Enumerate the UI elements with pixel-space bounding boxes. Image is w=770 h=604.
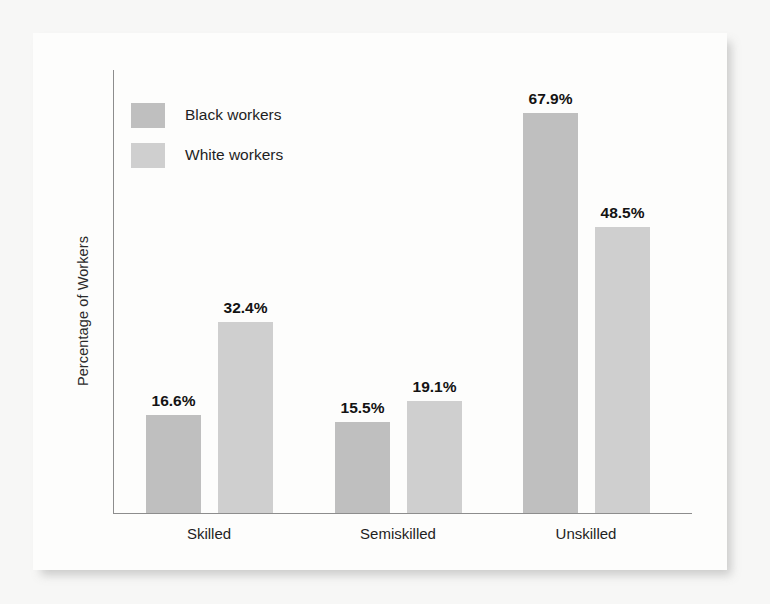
bar-rect (523, 113, 578, 513)
scanned-page-background: Percentage of Workers Black workers Whit… (0, 0, 770, 604)
bar-value-label: 15.5% (341, 399, 385, 417)
bar-rect (407, 401, 462, 513)
bar-value-label: 32.4% (224, 299, 268, 317)
figure-card: Percentage of Workers Black workers Whit… (33, 33, 727, 570)
bar-unskilled-black-workers[interactable]: 67.9% (523, 89, 578, 513)
x-axis-category-label-unskilled: Unskilled (506, 525, 666, 542)
bar-group-semiskilled: 15.5% 19.1% (335, 89, 462, 513)
bar-group-skilled: 16.6% 32.4% (146, 89, 273, 513)
bar-rect (146, 415, 201, 513)
bar-value-label: 67.9% (529, 90, 573, 108)
bar-value-label: 19.1% (413, 378, 457, 396)
bar-semiskilled-black-workers[interactable]: 15.5% (335, 89, 390, 513)
bar-semiskilled-white-workers[interactable]: 19.1% (407, 89, 462, 513)
bar-skilled-white-workers[interactable]: 32.4% (218, 89, 273, 513)
bar-group-unskilled: 67.9% 48.5% (523, 89, 650, 513)
x-axis-line (113, 513, 692, 514)
bar-skilled-black-workers[interactable]: 16.6% (146, 89, 201, 513)
bar-unskilled-white-workers[interactable]: 48.5% (595, 89, 650, 513)
bar-value-label: 16.6% (152, 392, 196, 410)
bar-rect (335, 422, 390, 513)
bar-value-label: 48.5% (601, 204, 645, 222)
y-axis-line (113, 70, 114, 514)
bar-rect (218, 322, 273, 513)
bar-chart-plot-area: Percentage of Workers Black workers Whit… (33, 33, 727, 570)
y-axis-title: Percentage of Workers (75, 201, 91, 421)
x-axis-category-label-skilled: Skilled (129, 525, 289, 542)
bar-rect (595, 227, 650, 513)
x-axis-category-label-semiskilled: Semiskilled (318, 525, 478, 542)
